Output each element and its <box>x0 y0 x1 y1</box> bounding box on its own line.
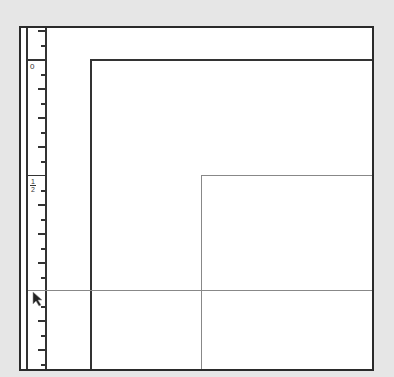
arrow-pointer-icon <box>32 291 44 307</box>
ruler-tick <box>41 132 45 134</box>
ruler-tick <box>38 30 45 32</box>
ruler-tick <box>38 233 45 235</box>
ruler-tick <box>38 349 45 351</box>
ruler-tick <box>41 103 45 105</box>
ruler-tick <box>38 204 45 206</box>
canvas-frame: 0 1 2 <box>19 26 374 371</box>
half-numerator: 1 <box>30 178 36 186</box>
ruler-tick <box>41 219 45 221</box>
ruler-label-half: 1 2 <box>30 178 36 193</box>
page-left-edge <box>90 59 92 369</box>
half-denominator: 2 <box>31 186 35 193</box>
ruler-edge-line <box>26 28 28 369</box>
ruler-tick <box>41 335 45 337</box>
ruler-tick <box>41 161 45 163</box>
ruler-tick <box>38 146 45 148</box>
ruler-tick <box>41 45 45 47</box>
ruler-tick <box>38 117 45 119</box>
ruler-tick <box>38 320 45 322</box>
ruler-zero-line <box>28 59 46 61</box>
ruler-tick <box>38 262 45 264</box>
vertical-ruler[interactable]: 0 1 2 <box>21 28 47 369</box>
ruler-half-line <box>28 175 46 176</box>
margin-left-guide[interactable] <box>201 175 202 369</box>
ruler-tick <box>41 74 45 76</box>
ruler-tick <box>41 364 45 366</box>
ruler-tick <box>38 88 45 90</box>
ruler-tick <box>41 248 45 250</box>
ruler-label-zero: 0 <box>30 63 34 71</box>
ruler-tick <box>41 190 45 192</box>
margin-top-guide[interactable] <box>201 175 372 176</box>
ruler-tick <box>41 277 45 279</box>
horizontal-guide[interactable] <box>28 290 372 291</box>
page-top-edge <box>90 59 372 61</box>
